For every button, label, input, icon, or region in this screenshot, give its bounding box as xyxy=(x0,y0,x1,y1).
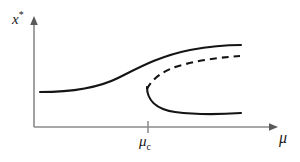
y-axis-label-text: x xyxy=(12,11,19,27)
x-axis-tick-label-muc: μc xyxy=(139,134,151,152)
axes-group xyxy=(30,16,278,133)
tick-label-subscript: c xyxy=(147,141,151,152)
unstable-branch xyxy=(147,56,240,89)
y-axis-label: x* xyxy=(12,10,24,27)
x-axis-arrow-icon xyxy=(269,123,278,131)
curves-group xyxy=(40,45,241,114)
lower-stable-branch xyxy=(147,87,241,114)
bifurcation-figure: x* μ μc xyxy=(0,0,300,162)
upper-stable-branch xyxy=(40,45,241,92)
tick-label-base: μ xyxy=(139,133,147,149)
y-axis-arrow-icon xyxy=(30,16,38,25)
y-axis-label-superscript: * xyxy=(19,9,24,20)
x-axis-label: μ xyxy=(279,130,287,146)
